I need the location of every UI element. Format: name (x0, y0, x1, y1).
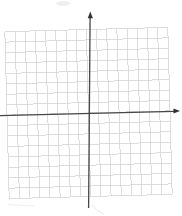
x-axis (0, 111, 174, 115)
worksheet-scan (0, 0, 182, 216)
x-axis-arrowhead-icon (174, 109, 181, 114)
scan-artifact-top-smudge (56, 1, 70, 6)
scan-artifact-bottom-left (8, 205, 34, 207)
coordinate-plane (0, 0, 182, 216)
scan-artifact-bottom-curl (92, 205, 104, 214)
y-axis-arrowhead-icon (88, 12, 93, 19)
